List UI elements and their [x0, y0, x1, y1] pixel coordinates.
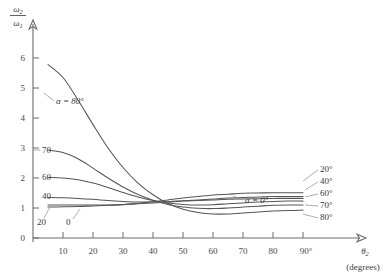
curve-label-70-right: 70°	[320, 200, 333, 210]
y-axis-title-denominator: ω1	[13, 18, 23, 29]
curve-label-alpha-0-text: α = 0°	[245, 195, 269, 205]
curve-label-20-right: 20°	[320, 164, 333, 174]
y-tick-label-4: 4	[21, 113, 26, 123]
curve-label-70-right-leader	[305, 205, 318, 206]
curve-label-80-right-leader	[303, 214, 318, 218]
x-tick-label-50: 50	[179, 246, 189, 256]
y-tick-label-5: 5	[21, 83, 26, 93]
x-tick-marks	[63, 232, 303, 238]
curve-label-60-right: 60°	[320, 188, 333, 198]
curve-label-alpha-80-text: α = 80°	[56, 96, 84, 106]
x-tick-label-10: 10	[59, 246, 69, 256]
curve-label-20-leader	[44, 207, 50, 218]
curve-label-40-right: 40°	[320, 176, 333, 186]
curve-label-80-right: 80°	[320, 212, 333, 222]
x-tick-label-70: 70	[239, 246, 249, 256]
x-tick-label-90: 90°	[300, 246, 313, 256]
curve-label-alpha-80-leader	[44, 93, 54, 101]
x-axis	[33, 234, 366, 242]
curve-label-20-left: 20	[37, 217, 47, 227]
y-tick-label-6: 6	[21, 53, 26, 63]
y-tick-marks	[33, 58, 39, 238]
curve-label-20-right-leader	[303, 170, 318, 181]
x-tick-label-80: 80	[269, 246, 279, 256]
curve-group	[48, 65, 303, 215]
curve-alpha-80	[48, 65, 303, 215]
curve-label-70-left: 70	[42, 145, 52, 155]
y-tick-label-3: 3	[21, 143, 26, 153]
curve-label-0-left: 0	[66, 217, 71, 227]
y-tick-labels: 0 1 2 3 4 5 6	[21, 53, 26, 243]
curve-label-40-right-leader	[305, 182, 318, 190]
curve-label-alpha-0-right: α = 0°	[245, 195, 269, 205]
curve-label-60-right-leader	[305, 194, 318, 197]
y-tick-label-2: 2	[21, 173, 26, 183]
x-axis-title: θ2 (degrees)	[346, 246, 379, 272]
curve-label-alpha-80-left: α = 80°	[56, 96, 84, 106]
y-axis-den-subscript: 1	[20, 22, 23, 29]
x-tick-label-40: 40	[149, 246, 159, 256]
x-axis-units-label: (degrees)	[346, 262, 379, 272]
x-tick-label-20: 20	[89, 246, 99, 256]
y-tick-label-1: 1	[21, 203, 26, 213]
y-axis	[29, 20, 37, 242]
x-tick-labels: 10 20 30 40 50 60 70 80 90°	[59, 246, 313, 256]
x-axis-title-symbol: θ2	[361, 246, 369, 257]
x-tick-label-30: 30	[119, 246, 129, 256]
y-tick-label-0: 0	[21, 233, 26, 243]
x-tick-label-60: 60	[209, 246, 219, 256]
curve-label-60-left: 60	[42, 172, 52, 182]
x-axis-theta-subscript: 2	[366, 250, 370, 257]
chart-container: 0 1 2 3 4 5 6 10 20 30 40 50 60	[0, 0, 385, 275]
y-axis-num-subscript: 2	[20, 8, 24, 15]
curve-label-0-leader	[73, 209, 80, 219]
y-axis-title: ω2 ω1	[10, 4, 26, 29]
y-axis-title-numerator: ω2	[13, 4, 23, 15]
chart-svg: 0 1 2 3 4 5 6 10 20 30 40 50 60	[0, 0, 385, 275]
curve-label-40-left: 40	[42, 191, 52, 201]
